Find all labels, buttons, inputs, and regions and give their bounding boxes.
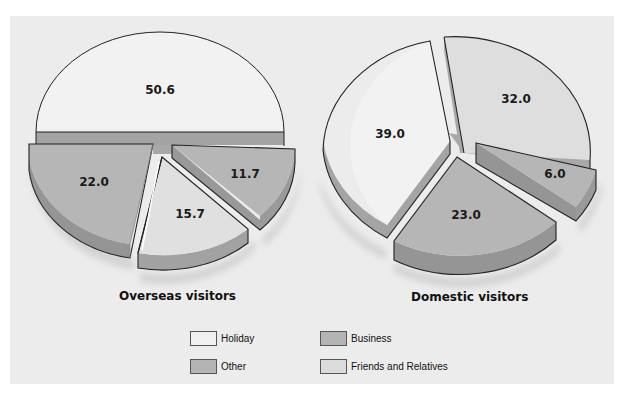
legend-swatch-holiday (190, 331, 217, 346)
domestic-other-value: 6.0 (544, 167, 565, 181)
legend-item-holiday: Holiday (190, 331, 254, 346)
legend-label-other: Other (221, 361, 246, 372)
overseas-friends-value: 15.7 (175, 207, 205, 221)
overseas-pie: 50.6 22.0 15.7 11.7 (29, 32, 300, 284)
overseas-slice-business: 22.0 (29, 144, 153, 258)
overseas-other-value: 11.7 (230, 167, 260, 181)
domestic-friends-value: 32.0 (501, 92, 531, 106)
overseas-slice-holiday: 50.6 (36, 32, 284, 154)
legend-label-friends: Friends and Relatives (351, 361, 448, 372)
domestic-pie: 32.0 39.0 6.0 23.0 (320, 37, 602, 288)
legend-label-holiday: Holiday (221, 333, 254, 344)
legend-item-business: Business (320, 331, 392, 346)
legend-swatch-friends (320, 359, 347, 374)
domestic-holiday-value: 39.0 (375, 127, 405, 141)
overseas-holiday-value: 50.6 (145, 83, 175, 97)
domestic-slice-friends: 32.0 (444, 37, 590, 168)
legend-item-friends: Friends and Relatives (320, 359, 448, 374)
legend-swatch-other (190, 359, 217, 374)
pie-charts: 50.6 22.0 15.7 11.7 (0, 0, 628, 407)
domestic-business-value: 23.0 (451, 208, 481, 222)
domestic-chart-title: Domestic visitors (411, 290, 528, 304)
overseas-chart-title: Overseas visitors (119, 289, 236, 303)
legend-item-other: Other (190, 359, 246, 374)
legend-label-business: Business (351, 333, 392, 344)
overseas-business-value: 22.0 (79, 175, 109, 189)
legend-swatch-business (320, 331, 347, 346)
